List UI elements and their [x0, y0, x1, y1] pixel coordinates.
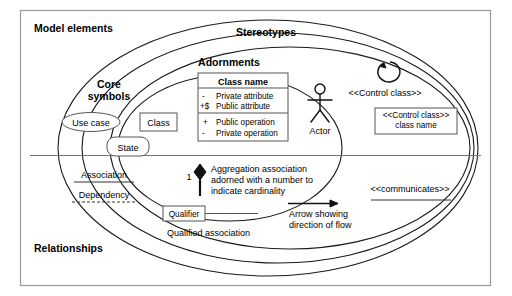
arrow-caption-line1: Arrow showing	[289, 209, 348, 219]
control-class-stereotype-label: <<Control class>>	[348, 88, 421, 98]
attribute-visibility-1: +$	[200, 102, 210, 111]
operation-visibility-1: -	[202, 129, 205, 138]
dependency-label: Dependency	[79, 190, 130, 200]
aggregation-line3: indicate cardinality	[211, 186, 286, 196]
class-box-name: Class name	[218, 77, 268, 87]
label-stereotypes: Stereotypes	[236, 26, 296, 38]
label-adornments: Adornments	[198, 56, 260, 68]
aggregation-line2: adorned with a number to	[211, 175, 313, 185]
association-label: Association	[81, 170, 127, 180]
label-core-symbols-line1: Core	[97, 78, 121, 90]
class-label: Class	[147, 118, 170, 128]
state-label: State	[117, 143, 138, 153]
actor-label: Actor	[309, 126, 330, 136]
label-core-symbols-line2: symbols	[88, 90, 131, 102]
communicates-label: <<communicates>>	[370, 184, 449, 194]
arrow-caption-line2: direction of flow	[289, 220, 352, 230]
qualified-association-caption: Qualified association	[167, 228, 250, 238]
label-relationships: Relationships	[34, 242, 103, 254]
operation-text-1: Private operation	[216, 129, 278, 138]
uml-diagram-page: Model elements Stereotypes Adornments Co…	[0, 0, 512, 296]
attribute-visibility-0: -	[202, 92, 205, 101]
operation-text-0: Public operation	[216, 118, 275, 127]
circular-arrow-icon	[378, 62, 400, 82]
attribute-text-0: Private attribute	[216, 92, 274, 101]
control-class-box-line1: <<Control class>>	[383, 111, 450, 120]
aggregation-line1: Aggregation association	[211, 164, 307, 174]
attribute-text-1: Public attribute	[216, 102, 271, 111]
label-model-elements: Model elements	[34, 22, 113, 34]
use-case-label: Use case	[72, 118, 110, 128]
diagram-canvas: Model elements Stereotypes Adornments Co…	[0, 0, 512, 296]
control-class-box-line2: class name	[395, 121, 437, 130]
operation-visibility-0: +	[203, 118, 208, 127]
aggregation-diamond-icon	[194, 164, 206, 196]
direction-arrow-icon	[288, 200, 338, 207]
actor-stick-figure-icon	[308, 84, 332, 122]
aggregation-cardinality: 1	[186, 172, 191, 182]
qualifier-label: Qualifier	[169, 210, 200, 219]
